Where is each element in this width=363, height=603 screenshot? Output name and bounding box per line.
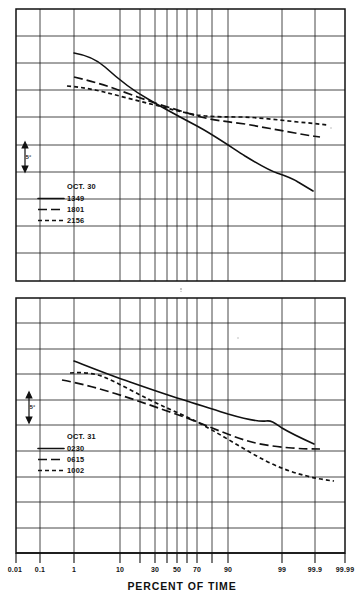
panel-bottom-frame [16, 298, 345, 553]
x-tick-label-10: 99.99 [336, 566, 355, 573]
x-tick-label-0: 0.01 [8, 566, 22, 573]
panel-bottom-curve-0615 [62, 380, 320, 449]
x-tick-label-5: 50 [173, 566, 181, 573]
x-tick-label-6: 70 [193, 566, 201, 573]
panel-bottom-scale-bar: 5° [26, 392, 35, 423]
x-tick-label-8: 99 [278, 566, 286, 573]
panel-top-scale-bar: 5° [22, 142, 31, 172]
panel-bottom-legend-label-1: 0615 [67, 455, 84, 464]
panel-top-legend-title: OCT. 30 [67, 182, 96, 191]
panel-bottom-scale-label: 5° [30, 404, 35, 410]
probability-chart-figure: 5° OCT. 30 1349 1801 2156 [0, 0, 363, 603]
x-axis-tick-labels: 0.01 0.1 1 10 30 50 70 90 99 99.9 99.99 [8, 566, 354, 573]
panel-bottom-legend-label-2: 1002 [67, 466, 84, 475]
x-axis: 0.01 0.1 1 10 30 50 70 90 99 99.9 99.99 … [8, 553, 354, 592]
x-tick-label-7: 90 [224, 566, 232, 573]
panel-top: 5° OCT. 30 1349 1801 2156 [16, 9, 345, 281]
panel-top-legend: OCT. 30 1349 1801 2156 [38, 182, 96, 225]
panel-top-legend-label-2: 2156 [67, 216, 84, 225]
panel-top-legend-label-0: 1349 [67, 194, 84, 203]
panel-bottom-curve-1002 [70, 373, 334, 481]
x-tick-label-1: 0.1 [35, 566, 45, 573]
x-axis-ticks [16, 553, 345, 563]
x-tick-label-3: 10 [116, 566, 124, 573]
panel-top-scale-label: 5° [26, 154, 31, 160]
x-tick-label-2: 1 [72, 566, 76, 573]
x-tick-label-4: 30 [151, 566, 159, 573]
panel-bottom-curve-0230 [74, 361, 314, 444]
scan-artifacts [180, 127, 332, 376]
panel-bottom-legend: OCT. 31 0230 0615 1002 [38, 432, 96, 475]
x-tick-label-9: 99.9 [308, 566, 322, 573]
x-axis-title: PERCENT OF TIME [127, 580, 236, 592]
panel-bottom-gridlines [16, 298, 345, 553]
figure-root: 5° OCT. 30 1349 1801 2156 [0, 0, 363, 603]
panel-bottom-legend-label-0: 0230 [67, 444, 84, 453]
panel-top-legend-label-1: 1801 [67, 205, 84, 214]
panel-top-gridlines [16, 9, 345, 281]
panel-top-curve-1349 [74, 53, 313, 191]
panel-bottom-legend-title: OCT. 31 [67, 432, 96, 441]
panel-bottom: 5° OCT. 31 0230 0615 1002 [16, 298, 345, 553]
